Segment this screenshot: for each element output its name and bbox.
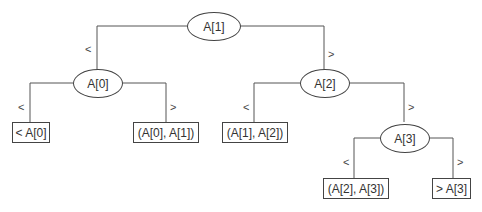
node-right: A[2] xyxy=(300,69,350,98)
edge-label-root-left: < xyxy=(85,43,91,55)
edge-label-a3-right: > xyxy=(457,156,463,168)
leaf-a1-a2: (A[1], A[2]) xyxy=(222,122,288,143)
leaf-less-than-a0-label: < A[0] xyxy=(15,126,46,140)
leaf-less-than-a0: < A[0] xyxy=(12,122,50,143)
edge-label-a2-right: > xyxy=(408,101,414,113)
edge-a0-left xyxy=(30,83,73,122)
leaf-greater-than-a3-label: > A[3] xyxy=(436,182,467,196)
node-right-right-label: A[3] xyxy=(394,132,415,146)
edge-label-a2-left: < xyxy=(243,101,249,113)
leaf-a0-a1-label: (A[0], A[1]) xyxy=(138,126,195,140)
node-right-right: A[3] xyxy=(380,124,430,153)
leaf-a2-a3-label: (A[2], A[3]) xyxy=(328,182,385,196)
node-root-label: A[1] xyxy=(203,20,224,34)
edge-a3-left xyxy=(354,138,380,178)
leaf-a2-a3: (A[2], A[3]) xyxy=(323,178,389,199)
edge-a2-right xyxy=(349,83,404,122)
leaf-a0-a1: (A[0], A[1]) xyxy=(133,122,199,143)
edge-label-a0-right: > xyxy=(170,101,176,113)
edge-root-left xyxy=(97,26,187,70)
edge-a3-right xyxy=(429,138,453,178)
node-left-label: A[0] xyxy=(87,77,108,91)
node-left: A[0] xyxy=(73,69,123,98)
edge-label-a3-left: < xyxy=(343,156,349,168)
leaf-a1-a2-label: (A[1], A[2]) xyxy=(227,126,284,140)
edge-root-right xyxy=(240,26,324,70)
edge-a0-right xyxy=(122,83,166,122)
edge-label-a0-left: < xyxy=(18,101,24,113)
node-root: A[1] xyxy=(187,12,241,41)
edge-a2-left xyxy=(254,83,300,122)
edge-label-root-right: > xyxy=(328,48,334,60)
leaf-greater-than-a3: > A[3] xyxy=(432,178,471,199)
node-right-label: A[2] xyxy=(314,77,335,91)
